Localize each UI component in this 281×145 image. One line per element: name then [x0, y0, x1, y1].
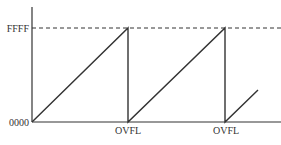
y-tick-ffff: FFFF — [7, 23, 30, 34]
counter-series-line — [32, 28, 258, 122]
counter-overflow-chart: FFFF 0000 OVFL OVFL — [0, 0, 281, 145]
x-tick-ovfl-2: OVFL — [213, 125, 239, 136]
y-tick-0000: 0000 — [9, 117, 29, 128]
x-tick-ovfl-1: OVFL — [115, 125, 141, 136]
